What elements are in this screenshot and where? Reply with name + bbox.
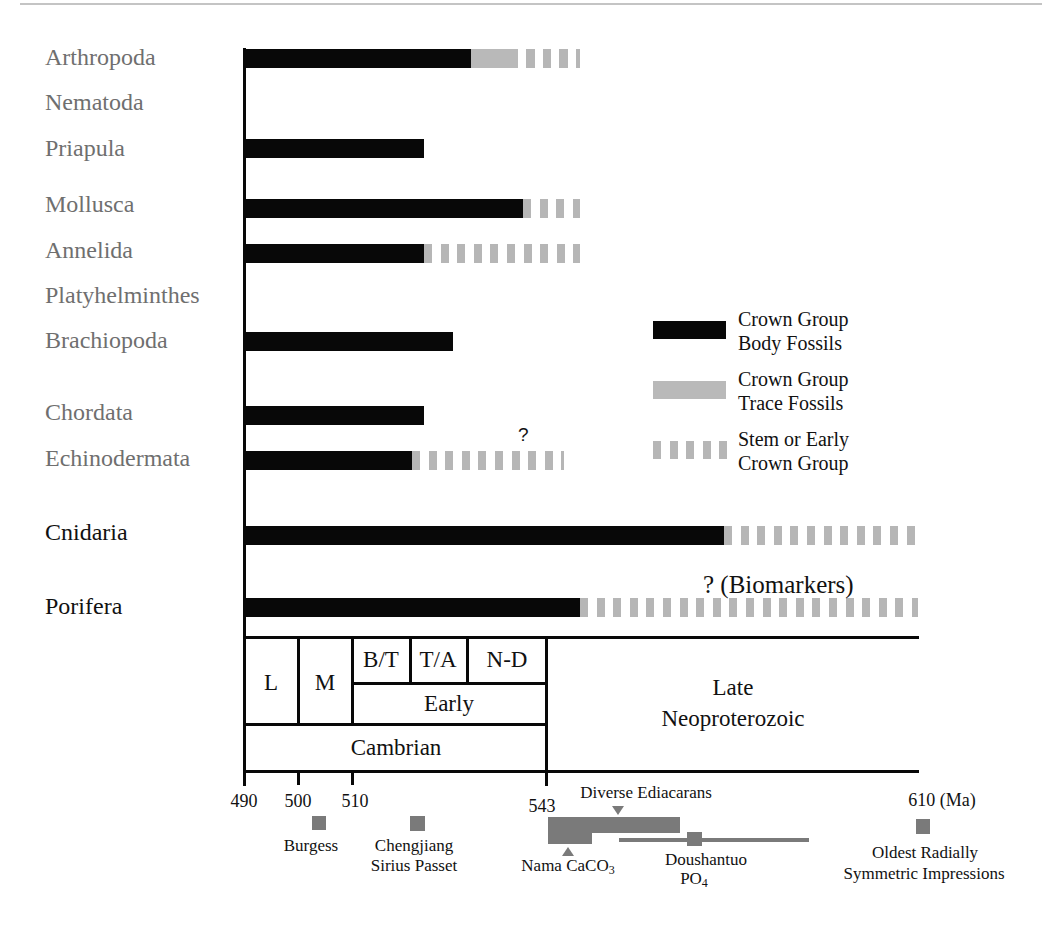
bar-mollusca — [0, 199, 1063, 218]
timescale-nd: N-D — [487, 647, 528, 673]
legend-label-body: Crown Group Body Fossils — [738, 307, 849, 355]
timescale-divider-cambrian-neoproterozoic — [545, 636, 548, 786]
y-axis-line — [243, 48, 246, 786]
timescale-divider-bt-ta — [409, 636, 412, 684]
oldest-radially-label: Oldest Radially — [872, 843, 978, 863]
diverse-ediacarans-label: Diverse Ediacarans — [580, 783, 712, 803]
timescale-top-line — [243, 636, 919, 639]
chengjiang-square-icon — [410, 816, 425, 831]
burgess-square-icon — [312, 816, 326, 830]
bar-segment-body — [244, 598, 580, 617]
tick-label-490: 490 — [231, 791, 258, 811]
legend-swatch-body — [653, 321, 726, 339]
tick-label-500: 500 — [285, 791, 312, 811]
bar-segment-body — [244, 49, 471, 68]
bar-segment-body — [244, 451, 412, 470]
bar-segment-body — [244, 199, 523, 218]
bar-segment-stem — [580, 598, 918, 617]
timescale-stage-bottom-line — [352, 682, 548, 685]
timescale-cambrian: Cambrian — [351, 735, 442, 761]
legend-line: Crown Group — [738, 451, 849, 475]
timescale-bottom-line — [243, 770, 919, 773]
legend-label-stem: Stem or Early Crown Group — [738, 427, 849, 475]
po4-label-subscript: 4 — [702, 876, 708, 890]
timescale-neoproterozoic: Neoproterozoic — [661, 706, 804, 732]
sirius-passet-label: Sirius Passet — [371, 856, 457, 876]
nama-triangle-icon — [562, 847, 574, 856]
timescale-divider-m-early — [351, 636, 354, 725]
bar-cnidaria — [0, 526, 1063, 545]
bar-segment-body — [244, 406, 424, 425]
timescale-early: Early — [424, 691, 474, 717]
legend-line: Crown Group — [738, 367, 849, 391]
nama-label-text: Nama CaCO — [521, 856, 608, 875]
doushantuo-range-line — [619, 838, 809, 842]
bar-segment-body — [244, 139, 424, 158]
legend-swatch-trace — [653, 381, 726, 399]
symmetric-impressions-label: Symmetric Impressions — [843, 864, 1004, 884]
legend-swatch-stem — [653, 441, 729, 459]
legend-line: Trace Fossils — [738, 391, 849, 415]
legend-label-trace: Crown Group Trace Fossils — [738, 367, 849, 415]
bar-segment-body — [244, 244, 424, 263]
bar-priapula — [0, 139, 1063, 158]
legend-line: Stem or Early — [738, 427, 849, 451]
tick-label-610: 610 (Ma) — [908, 790, 975, 810]
chengjiang-label: Chengjiang — [375, 836, 453, 856]
timescale-late-cambrian: L — [264, 670, 278, 696]
diverse-ediacarans-triangle-icon — [612, 806, 624, 815]
nama-range-bar — [548, 817, 592, 844]
bar-brachiopoda — [0, 332, 1063, 351]
porifera-biomarkers-note: ? (Biomarkers) — [703, 570, 854, 600]
bar-segment-body — [244, 526, 724, 545]
bar-chordata — [0, 406, 1063, 425]
header-rule — [20, 3, 1042, 5]
bar-segment-stem — [523, 199, 580, 218]
legend-line: Crown Group — [738, 307, 849, 331]
bar-segment-body — [244, 332, 453, 351]
timescale-late: Late — [713, 675, 754, 701]
tick-500 — [297, 771, 300, 785]
po4-label-text: PO — [680, 869, 702, 888]
nama-label: Nama CaCO3 — [521, 856, 614, 880]
bar-platyhelminthes — [0, 286, 1063, 305]
tick-label-510: 510 — [342, 791, 369, 811]
timescale-early-bottom-line — [243, 723, 548, 726]
bar-annelida — [0, 244, 1063, 263]
legend-line: Body Fossils — [738, 331, 849, 355]
bar-segment-stem — [424, 244, 581, 263]
tick-510 — [351, 771, 354, 785]
timescale-divider-l-m — [297, 636, 300, 725]
timescale-divider-ta-nd — [466, 636, 469, 684]
bar-porifera — [0, 598, 1063, 617]
bar-echinodermata — [0, 451, 1063, 470]
nama-label-subscript: 3 — [609, 863, 615, 877]
timescale-ta: T/A — [419, 647, 456, 673]
doushantuo-label: Doushantuo — [665, 850, 747, 870]
timescale-middle-cambrian: M — [315, 670, 335, 696]
bar-arthropoda — [0, 49, 1063, 68]
burgess-label: Burgess — [284, 836, 338, 856]
bar-segment-trace — [471, 49, 518, 68]
bar-nematoda — [0, 93, 1063, 112]
timescale-bt: B/T — [363, 647, 399, 673]
oldest-impressions-square-icon — [916, 819, 930, 834]
bar-segment-stem — [412, 451, 564, 470]
tick-label-543: 543 — [529, 796, 556, 816]
doushantuo-square-icon — [687, 832, 702, 846]
po4-label: PO4 — [680, 869, 708, 893]
bar-segment-stem — [724, 526, 918, 545]
bar-segment-stem — [518, 49, 581, 68]
echinodermata-question-mark: ? — [518, 424, 529, 446]
